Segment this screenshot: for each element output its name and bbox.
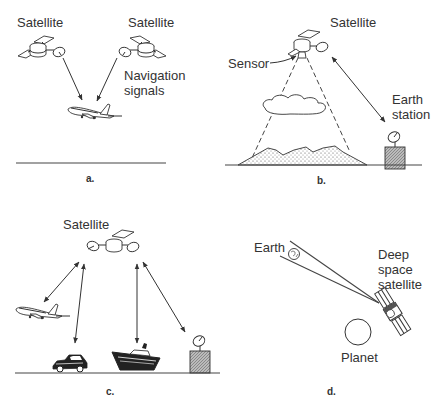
earth-station-label: Earth bbox=[392, 92, 423, 107]
satellite-label-right: Satellite bbox=[128, 15, 174, 30]
earth-label: Earth bbox=[254, 240, 285, 255]
planet-icon bbox=[345, 319, 371, 345]
ship-icon bbox=[112, 343, 160, 370]
deep-space-satellite-label: space bbox=[378, 262, 413, 277]
link-arrow-car bbox=[75, 264, 84, 343]
earth-station-icon bbox=[190, 334, 210, 373]
deep-space-satellite-icon bbox=[374, 287, 412, 336]
satellite-label: Satellite bbox=[330, 15, 376, 30]
earth-station-label: station bbox=[392, 107, 430, 122]
beam-line bbox=[280, 256, 379, 303]
signal-arrow bbox=[63, 58, 82, 100]
signal-arrow bbox=[97, 58, 117, 101]
beam-line bbox=[290, 241, 379, 303]
panel-b: Satellite Sensor Earth station b. bbox=[225, 15, 430, 186]
link-arrow-earth-station bbox=[143, 262, 185, 332]
sensor-icon bbox=[298, 52, 306, 58]
satellite-icon bbox=[288, 30, 329, 58]
panel-c: Satellite bbox=[15, 217, 220, 397]
sensor-pointer-arrow bbox=[270, 56, 296, 63]
panel-a: Satellite Satellite Navigation signals a… bbox=[16, 15, 185, 184]
satellite-icon bbox=[118, 36, 166, 58]
satellite-label-left: Satellite bbox=[17, 15, 63, 30]
link-arrow-airplane bbox=[44, 262, 79, 302]
sensor-label: Sensor bbox=[228, 56, 270, 71]
panel-caption: c. bbox=[106, 386, 115, 397]
planet-label: Planet bbox=[341, 350, 378, 365]
airplane-icon bbox=[68, 104, 122, 119]
communication-link-arrow bbox=[332, 57, 385, 122]
earth-icon bbox=[289, 249, 300, 260]
satellite-applications-figure: Satellite Satellite Navigation signals a… bbox=[0, 0, 440, 401]
satellite-icon bbox=[18, 36, 66, 58]
satellite-label: Satellite bbox=[63, 217, 109, 232]
panel-caption: d. bbox=[327, 386, 336, 397]
car-icon bbox=[53, 355, 87, 372]
mountain-terrain bbox=[238, 146, 367, 165]
panel-caption: a. bbox=[86, 173, 95, 184]
cloud-icon bbox=[263, 95, 325, 115]
airplane-icon bbox=[16, 304, 70, 319]
panel-d: Earth Deep space satellite P bbox=[254, 240, 422, 397]
deep-space-satellite-label: Deep bbox=[378, 247, 409, 262]
satellite-icon bbox=[86, 230, 140, 253]
panel-caption: b. bbox=[317, 175, 326, 186]
navigation-signals-label: signals bbox=[124, 83, 165, 98]
earth-station-icon bbox=[385, 130, 405, 169]
navigation-signals-label: Navigation bbox=[124, 68, 185, 83]
